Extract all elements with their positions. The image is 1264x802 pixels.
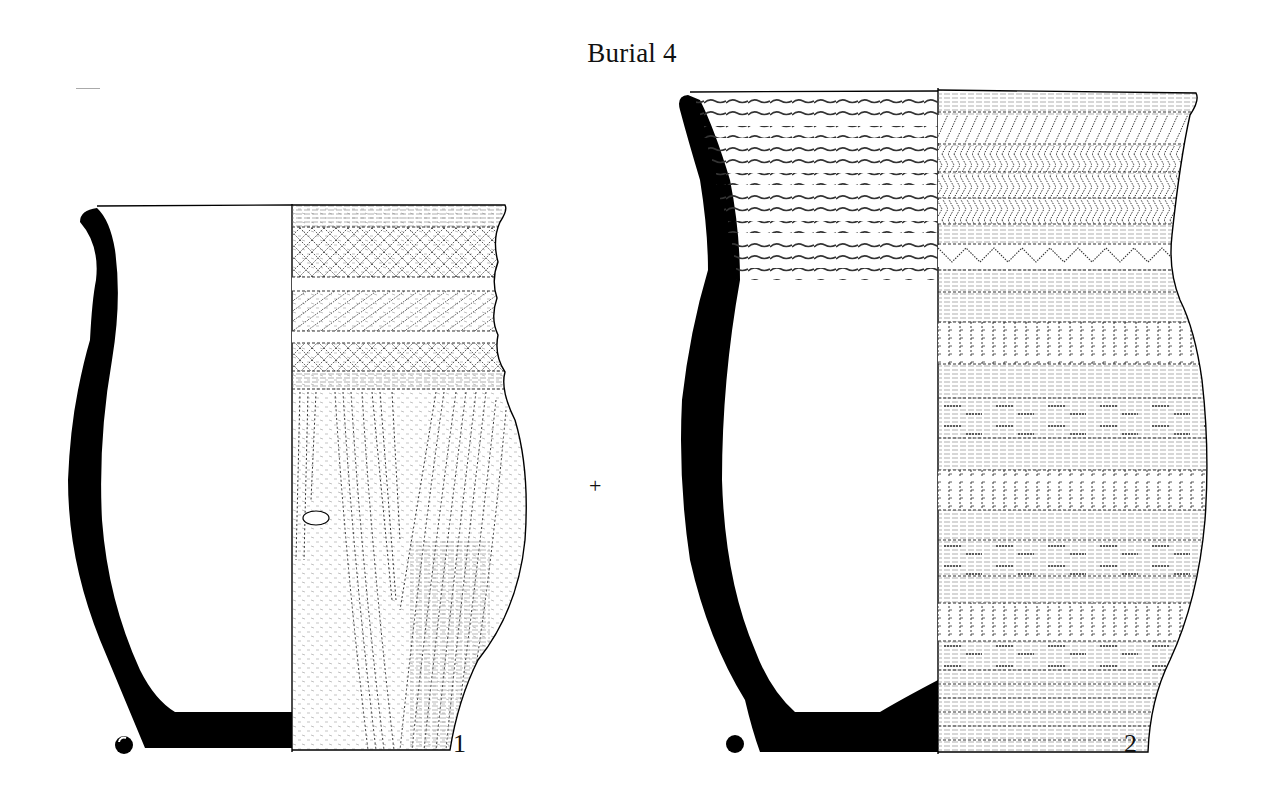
figure-number-2: 2 — [1124, 729, 1137, 759]
vessel-drawings — [0, 0, 1264, 802]
figure-number-1: 1 — [453, 729, 466, 759]
vessel-1-exterior-decoration — [292, 200, 532, 760]
filled-circle-icon — [726, 735, 744, 753]
vessel-1-lug — [303, 511, 329, 525]
vessel-2-exterior-decoration — [938, 88, 1218, 758]
vessel-1 — [68, 200, 532, 760]
center-registration-mark: + — [589, 475, 601, 497]
vessel-2 — [679, 88, 1218, 758]
vessel-1-profile-section — [68, 208, 292, 748]
half-filled-circle-icon — [115, 736, 133, 754]
